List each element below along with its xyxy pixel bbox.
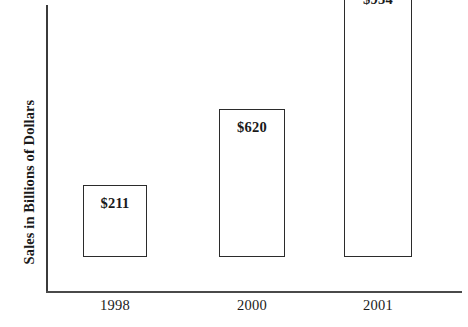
x-tick-label-2001: 2001 (344, 297, 412, 314)
plot-area: $211 $620 $954 (0, 0, 468, 292)
bar-2000[interactable]: $620 (219, 109, 285, 257)
bar-chart: Sales in Billions of Dollars $211 $620 $… (0, 0, 468, 327)
bar-value-label: $954 (345, 0, 411, 8)
bar-2001[interactable]: $954 (344, 0, 412, 257)
x-tick-label-2000: 2000 (219, 297, 285, 314)
bar-value-label: $211 (84, 195, 146, 212)
bar-1998[interactable]: $211 (83, 185, 147, 257)
bar-value-label: $620 (220, 119, 284, 136)
x-tick-label-1998: 1998 (83, 297, 147, 314)
